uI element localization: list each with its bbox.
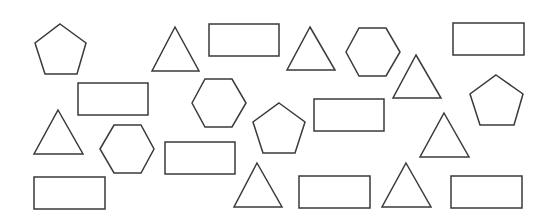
triangle-shape (393, 55, 441, 98)
rectangle-shape (209, 24, 279, 56)
rectangle-shape (34, 177, 105, 209)
triangle-shape (34, 110, 83, 154)
pentagon-shape (253, 103, 305, 153)
rectangle-shape (453, 23, 524, 55)
rectangle-shape (299, 176, 370, 208)
triangle-shape (420, 113, 469, 157)
rectangle-shape (314, 99, 384, 131)
hexagon-shape (192, 79, 246, 127)
triangle-shape (287, 27, 335, 70)
hexagon-shape (346, 28, 400, 76)
pentagon-shape (470, 75, 523, 125)
rectangle-shape (165, 142, 235, 174)
pentagon-shape (35, 24, 86, 74)
triangle-shape (234, 163, 282, 207)
shapes-canvas (0, 0, 553, 218)
rectangle-shape (78, 83, 148, 115)
rectangle-shape (451, 176, 522, 208)
triangle-shape (152, 27, 199, 71)
triangle-shape (382, 163, 431, 207)
hexagon-shape (100, 125, 154, 173)
